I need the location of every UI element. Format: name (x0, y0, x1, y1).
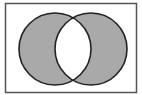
venn-diagram (0, 0, 142, 95)
